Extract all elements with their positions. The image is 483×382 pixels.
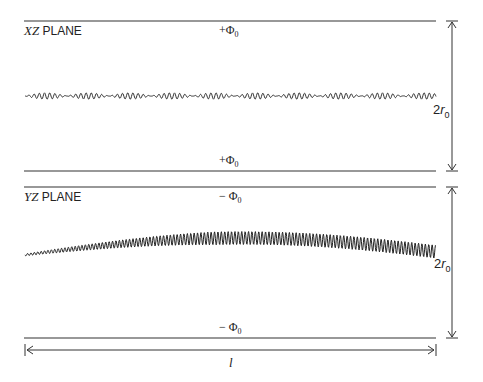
xz-aperture-dimension [446, 21, 458, 171]
yz-top-potential: − Φ0 [219, 189, 242, 205]
yz-axis-label: YZ [24, 189, 38, 204]
yz-bottom-potential: − Φ0 [219, 320, 242, 336]
xz-top-potential: +Φ0 [219, 23, 239, 39]
xz-plane-title: XZ PLANE [24, 23, 82, 39]
yz-plane-title: YZ PLANE [24, 189, 81, 205]
xz-trajectory [25, 93, 436, 99]
xz-plane-word: PLANE [43, 24, 82, 38]
length-label: l [229, 355, 233, 371]
xz-axis-label: XZ [24, 23, 39, 38]
yz-aperture-label: 2r0 [434, 256, 451, 274]
xz-bottom-potential: +Φ0 [219, 153, 239, 169]
yz-plane-word: PLANE [42, 190, 81, 204]
yz-trajectory [25, 232, 436, 258]
xz-aperture-label: 2r0 [433, 102, 450, 120]
